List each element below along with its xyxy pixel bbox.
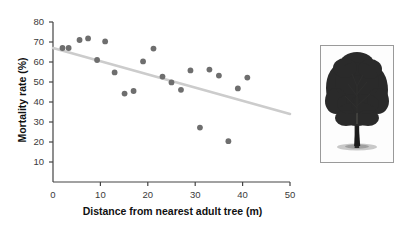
x-axis-ticks bbox=[100, 182, 290, 186]
x-tick-label-30: 30 bbox=[183, 190, 207, 200]
scatter-point bbox=[188, 68, 194, 74]
scatter-point bbox=[85, 36, 91, 42]
x-tick-label-20: 20 bbox=[136, 190, 160, 200]
y-axis-title: Mortality rate (%) bbox=[16, 40, 28, 160]
scatter-point bbox=[112, 70, 118, 76]
scatter-point bbox=[151, 46, 157, 52]
x-tick-label-10: 10 bbox=[88, 190, 112, 200]
scatter-chart: 102030405060708001020304050 Distance fro… bbox=[0, 0, 310, 232]
scatter-point bbox=[94, 57, 100, 63]
y-tick-label-80: 80 bbox=[22, 17, 44, 27]
scatter-point bbox=[66, 45, 72, 51]
scatter-points-group bbox=[60, 36, 251, 145]
scatter-point bbox=[197, 125, 203, 131]
x-tick-label-40: 40 bbox=[231, 190, 255, 200]
tree-silhouette-icon bbox=[321, 46, 393, 162]
scatter-point bbox=[140, 59, 146, 65]
scatter-point bbox=[207, 67, 213, 73]
scatter-point bbox=[235, 86, 241, 92]
scatter-point bbox=[169, 80, 175, 86]
scatter-point bbox=[216, 73, 222, 79]
tree-photo-panel bbox=[320, 45, 394, 163]
x-tick-label-50: 50 bbox=[278, 190, 302, 200]
scatter-point bbox=[122, 91, 128, 97]
scatter-point bbox=[131, 88, 137, 94]
scatter-point bbox=[225, 138, 231, 144]
scatter-point bbox=[160, 74, 166, 80]
x-axis-title: Distance from nearest adult tree (m) bbox=[45, 205, 300, 217]
scatter-point bbox=[102, 39, 108, 45]
scatter-point bbox=[77, 37, 83, 43]
scatter-point bbox=[60, 45, 66, 51]
x-tick-label-0: 0 bbox=[41, 190, 65, 200]
scatter-point bbox=[178, 87, 184, 93]
figure-root: 102030405060708001020304050 Distance fro… bbox=[0, 0, 410, 232]
scatter-point bbox=[244, 75, 250, 81]
